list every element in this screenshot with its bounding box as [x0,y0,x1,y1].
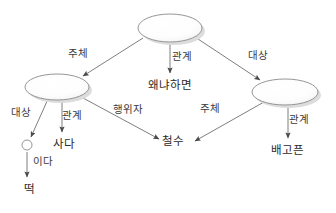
node-left[interactable] [25,74,89,100]
edge-label-left-cheolsu: 행위자 [113,105,143,116]
node-top[interactable] [138,14,202,42]
leaf-label-waenyahamyeon: 왜냐하면 [148,80,192,92]
edge-left-small-line [31,99,48,137]
edge-label-left-sada: 관계 [62,111,82,122]
leaf-label-sada: 사다 [53,139,75,151]
edge-label-top-right: 대상 [248,51,268,62]
node-small-circle[interactable] [22,140,32,150]
edge-label-top-left: 주체 [68,49,88,60]
diagram-canvas: 주체 관계 대상 대상 관계 행위자 이다 주체 관계 왜냐하면 사다 떡 철수… [0,0,336,213]
node-right[interactable] [252,79,318,105]
leaf-label-tteok: 떡 [24,184,35,196]
edge-label-right-cheolsu: 주체 [200,104,220,115]
edge-label-right-baegopeun: 관계 [289,115,309,126]
edge-label-left-small: 대상 [11,108,31,119]
leaf-label-baegopeun: 배고픈 [271,145,304,157]
edge-top-left-line [83,38,143,76]
edge-label-small-tteok: 이다 [33,157,53,168]
edge-label-top-why: 관계 [172,52,192,63]
leaf-label-cheolsu: 철수 [162,136,184,148]
diagram-svg [0,0,336,213]
